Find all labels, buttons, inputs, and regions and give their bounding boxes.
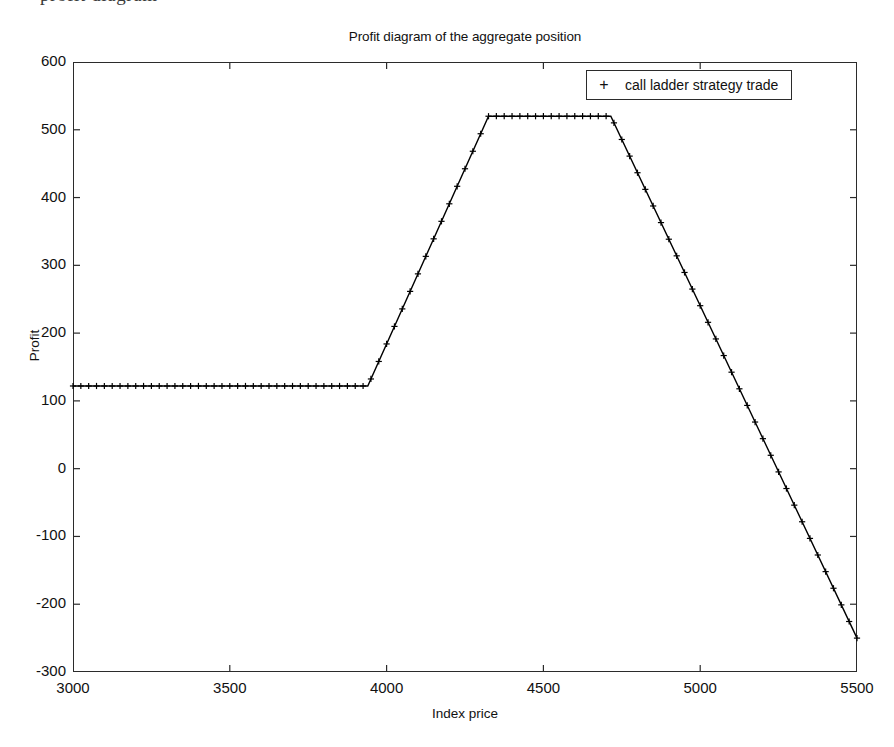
profit-diagram-figure: profit diagram Profit diagram of the agg… bbox=[0, 0, 894, 747]
y-tick-label: 400 bbox=[8, 188, 66, 205]
x-axis-tick-labels: 300035004000450050005500 bbox=[0, 679, 894, 703]
page-bleed-text: profit diagram bbox=[40, 0, 460, 6]
y-tick-label: -200 bbox=[8, 594, 66, 611]
chart-legend: + call ladder strategy trade bbox=[586, 70, 792, 100]
legend-plus-marker: + bbox=[597, 77, 611, 93]
plot-canvas bbox=[73, 62, 857, 672]
legend-label-call-ladder: call ladder strategy trade bbox=[625, 77, 778, 93]
y-tick-label: -300 bbox=[8, 662, 66, 679]
series-line-call-ladder bbox=[73, 116, 857, 638]
x-tick-label: 3500 bbox=[175, 679, 285, 696]
x-tick-label: 3000 bbox=[18, 679, 128, 696]
y-tick-label: 300 bbox=[8, 255, 66, 272]
y-tick-label: 100 bbox=[8, 391, 66, 408]
y-tick-label: 500 bbox=[8, 120, 66, 137]
y-tick-label: -100 bbox=[8, 526, 66, 543]
y-axis-title: Profit bbox=[27, 306, 42, 386]
x-axis-title: Index price bbox=[73, 706, 857, 721]
x-tick-label: 5000 bbox=[645, 679, 755, 696]
x-tick-label: 4000 bbox=[332, 679, 442, 696]
x-tick-label: 5500 bbox=[802, 679, 894, 696]
y-axis-ticks bbox=[73, 130, 857, 604]
y-tick-label: 600 bbox=[8, 52, 66, 69]
chart-title: Profit diagram of the aggregate position bbox=[73, 29, 857, 44]
y-tick-label: 0 bbox=[8, 459, 66, 476]
series-markers-call-ladder bbox=[70, 113, 860, 641]
x-tick-label: 4500 bbox=[488, 679, 598, 696]
